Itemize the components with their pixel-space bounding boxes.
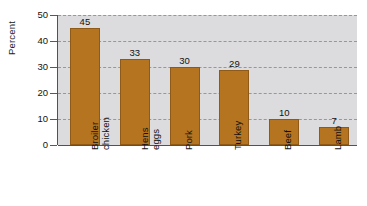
- y-axis-title: Percent: [6, 8, 22, 68]
- category-label: Turkey: [218, 148, 248, 206]
- bar-value-label: 30: [164, 55, 206, 66]
- x-axis-category-labels: BroilerchickenHenseggsPorkTurkeyBeefLamb: [57, 148, 356, 206]
- category-label-line: chicken: [100, 117, 111, 150]
- y-tick-label: 50: [24, 9, 48, 21]
- category-label-text: Pork: [184, 130, 195, 150]
- category-label-line: Pork: [184, 130, 195, 150]
- y-tick-label: 40: [24, 35, 48, 47]
- category-label-line: Beef: [283, 130, 294, 150]
- category-label: Henseggs: [119, 148, 149, 206]
- bar-value-label: 33: [114, 47, 156, 58]
- category-label-text: Beef: [283, 130, 294, 150]
- bar-value-label: 45: [64, 16, 106, 27]
- category-label-line: eggs: [150, 127, 161, 150]
- category-label-text: Turkey: [233, 121, 244, 150]
- category-label-text: Broilerchicken: [90, 117, 111, 150]
- category-label: Beef: [268, 148, 298, 206]
- y-tick-mark: [50, 67, 57, 68]
- category-label-line: Lamb: [333, 126, 344, 150]
- category-label-text: Lamb: [333, 126, 344, 150]
- y-tick-label: 30: [24, 61, 48, 73]
- y-tick-label: 10: [24, 113, 48, 125]
- y-tick-mark: [50, 93, 57, 94]
- category-label: Pork: [169, 148, 199, 206]
- bar-group[interactable]: 10: [269, 15, 299, 145]
- y-tick-mark: [50, 119, 57, 120]
- bar-chart: Percent 01020304050 45333029107 Broilerc…: [0, 0, 367, 206]
- category-label-line: Broiler: [90, 117, 101, 150]
- bar-group[interactable]: 33: [120, 15, 150, 145]
- y-tick-label: 0: [24, 139, 48, 151]
- category-label: Lamb: [318, 148, 348, 206]
- bar-value-label: 7: [313, 115, 355, 126]
- category-label: Broilerchicken: [69, 148, 99, 206]
- bar-group[interactable]: 30: [170, 15, 200, 145]
- y-axis-tick-labels: 01020304050: [24, 9, 48, 151]
- y-tick-mark: [50, 15, 57, 16]
- y-tick-mark: [50, 41, 57, 42]
- category-label-line: Turkey: [233, 121, 244, 150]
- bar-value-label: 29: [213, 58, 255, 69]
- y-tick-mark: [50, 145, 57, 146]
- category-label-text: Henseggs: [140, 127, 161, 150]
- bar-value-label: 10: [263, 107, 305, 118]
- y-tick-label: 20: [24, 87, 48, 99]
- category-label-line: Hens: [140, 127, 151, 150]
